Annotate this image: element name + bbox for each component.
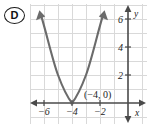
y-tick-label-6: 6: [118, 15, 123, 25]
y-tick-label-4: 4: [118, 43, 123, 53]
vertex-point-annotation: (−4, 0): [84, 90, 111, 100]
y-axis-name: y: [134, 10, 138, 20]
x-tick-label--4: −4: [66, 107, 78, 117]
y-axis: [125, 5, 132, 123]
graph-figure: D: [0, 0, 149, 129]
coordinate-plane: −6 −4 −2 2 4 6 x y (−4, 0): [30, 4, 147, 124]
y-tick-label-2: 2: [118, 71, 123, 81]
x-tick-label--6: −6: [38, 107, 50, 117]
x-axis-name: x: [135, 109, 139, 119]
answer-choice-label: D: [4, 7, 25, 24]
vertex-point-marker: [70, 101, 74, 105]
x-tick-label--2: −2: [94, 107, 106, 117]
grid-horizontal-lines: [30, 5, 147, 117]
